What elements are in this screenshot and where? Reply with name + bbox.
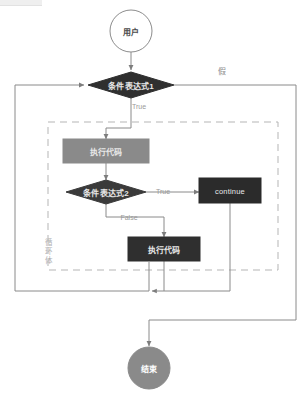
node-code1[interactable] [63, 139, 149, 163]
flowchart-canvas: 用户 条件表达式1 执行代码 条件表达式2 continue 执行代码 结束 假… [0, 0, 308, 396]
flowchart-svg [0, 0, 308, 396]
edge-cond1-false-to-end [149, 85, 296, 346]
node-cond2[interactable] [66, 180, 146, 204]
node-start[interactable] [110, 10, 152, 52]
node-cond1[interactable] [88, 72, 174, 98]
edge-cond2-false-to-code2 [106, 204, 164, 237]
node-continue[interactable] [199, 178, 261, 203]
edge-cond1-true-to-code1 [106, 98, 131, 139]
node-code2[interactable] [128, 237, 200, 261]
node-end[interactable] [128, 347, 170, 389]
